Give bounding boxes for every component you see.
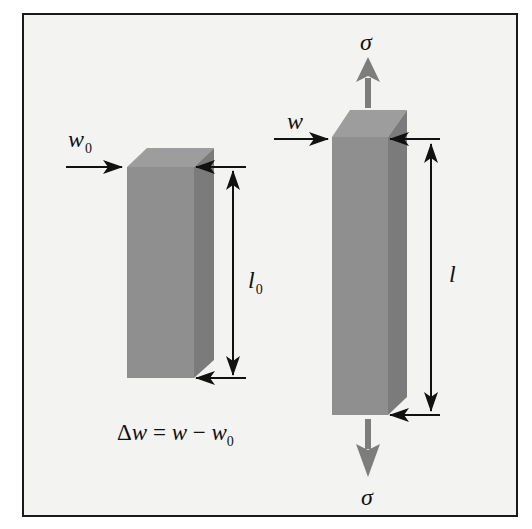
left-bar — [127, 148, 214, 378]
width-change-equation: Δw = w − w0 — [117, 420, 234, 450]
label-initial-width: w0 — [68, 127, 92, 156]
left-bar-side-face — [194, 148, 214, 378]
right-bar — [332, 110, 407, 415]
left-bar-front-face — [127, 167, 194, 378]
label-stress-bottom: σ — [361, 485, 373, 509]
label-width: w — [287, 109, 303, 133]
right-bar-side-face — [388, 110, 407, 415]
right-bar-front-face — [332, 137, 388, 415]
stress-arrow-top — [356, 57, 380, 108]
label-length: l — [449, 262, 456, 286]
label-initial-length: l0 — [248, 268, 263, 297]
label-stress-top: σ — [360, 30, 372, 54]
stress-arrow-bottom — [356, 419, 380, 477]
